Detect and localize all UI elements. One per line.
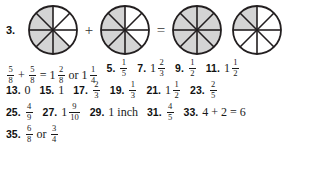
fraction-numerator: 3 [51, 124, 57, 133]
answer-item: 33.4 + 2 = 6 [184, 105, 246, 120]
pie-spoke [53, 13, 70, 30]
answer-value: 1910 [61, 102, 81, 122]
answer-value: 45 [166, 102, 175, 122]
pie-spoke [240, 30, 257, 47]
fraction-denominator: 9 [26, 113, 32, 122]
answer-text: 4 + 2 = 6 [202, 105, 246, 120]
answer-value: 112 [165, 80, 181, 100]
fraction-denominator: 2 [232, 69, 238, 78]
fraction-numerator: 2 [93, 80, 99, 89]
connector-word: or [37, 127, 47, 142]
pie-spoke [125, 13, 142, 30]
answer-item: 7.123 [137, 58, 166, 78]
answer-item: 35.68or34 [6, 124, 59, 144]
answer-exercise-number: 7. [137, 62, 146, 74]
fraction-diagram-row: 3. + = [0, 0, 320, 60]
fraction-denominator: 2 [189, 69, 195, 78]
fraction: 68 [26, 124, 33, 144]
answer-text: 1 inch [108, 105, 138, 120]
fraction-denominator: 3 [130, 91, 136, 100]
pie-chart-1 [26, 3, 80, 57]
fraction-numerator: 2 [158, 58, 164, 67]
fraction: 58 [7, 65, 14, 85]
fraction: 45 [167, 102, 174, 122]
fraction-denominator: 8 [7, 76, 13, 85]
fraction: 23 [93, 80, 100, 100]
plus-operator: + [80, 22, 98, 39]
answer-value: 15 [119, 58, 128, 78]
answer-exercise-number: 33. [184, 106, 199, 118]
fraction-numerator: 5 [7, 65, 13, 74]
whole-number: 1 [50, 68, 56, 83]
fraction-denominator: 8 [26, 135, 32, 144]
pie-chart-2 [98, 3, 152, 57]
answer-exercise-number: 21. [146, 84, 161, 96]
fraction-denominator: 4 [51, 135, 57, 144]
fraction-denominator: 8 [58, 76, 64, 85]
whole-number: 1 [61, 105, 67, 120]
answer-value: 112 [224, 58, 240, 78]
answer-exercise-number: 19. [110, 84, 125, 96]
answer-item: 29.1 inch [90, 105, 138, 120]
fraction-numerator: 2 [210, 80, 216, 89]
answer-item: 19.13 [110, 80, 138, 100]
answer-row: 25.4927.191029.1 inch31.4533.4 + 2 = 6 [6, 102, 314, 124]
answer-value: 49 [25, 102, 34, 122]
answer-item: 9.12 [175, 58, 197, 78]
answer-exercise-number: 25. [6, 106, 21, 118]
equals-operator: = [152, 22, 170, 39]
fraction-numerator: 4 [26, 102, 32, 111]
fraction-denominator: 5 [210, 91, 216, 100]
fraction: 13 [129, 80, 136, 100]
answer-value: 1 inch [108, 105, 138, 120]
fraction: 12 [173, 80, 180, 100]
fraction-denominator: 3 [93, 91, 99, 100]
fraction-numerator: 4 [167, 102, 173, 111]
answer-exercise-number: 9. [175, 62, 184, 74]
answer-value: 4 + 2 = 6 [202, 105, 246, 120]
answer-row: 13.015.117.2319.1321.11223.25 [6, 80, 314, 102]
fraction: 15 [120, 58, 127, 78]
fraction-numerator: 1 [189, 58, 195, 67]
fraction: 23 [158, 58, 165, 78]
fraction: 28 [58, 65, 65, 85]
fraction-numerator: 6 [26, 124, 32, 133]
answer-row: 35.68or34 [6, 124, 314, 146]
fraction-numerator: 5 [29, 65, 35, 74]
fraction: 34 [51, 124, 58, 144]
whole-number: 1 [165, 83, 171, 98]
fraction-numerator: 1 [121, 58, 127, 67]
answer-value: 12 [188, 58, 197, 78]
answer-exercise-number: 31. [147, 106, 162, 118]
pie-chart-4 [230, 3, 284, 57]
fraction: 910 [69, 102, 80, 122]
fraction-numerator: 9 [71, 102, 77, 111]
answer-exercise-number: 5. [107, 62, 116, 74]
answer-exercise-number: 11. [206, 62, 220, 74]
fraction-denominator: 2 [173, 91, 179, 100]
answer-text: + [18, 68, 25, 83]
fraction: 12 [232, 58, 239, 78]
answer-exercise-number: 35. [6, 128, 21, 140]
answer-value: 68or34 [25, 124, 59, 144]
answer-item: 27.1910 [43, 102, 81, 122]
fraction-numerator: 2 [58, 65, 64, 74]
answer-item: 31.45 [147, 102, 175, 122]
answer-exercise-number: 23. [190, 84, 205, 96]
answer-exercise-number: 27. [43, 106, 58, 118]
answer-item: 25.49 [6, 102, 34, 122]
fraction-denominator: 10 [69, 113, 80, 122]
answer-value: 13 [128, 80, 137, 100]
fraction-denominator: 5 [167, 113, 173, 122]
fraction-denominator: 5 [121, 69, 127, 78]
answer-key-list: 58+58=128or1145.157.1239.1211.11213.015.… [0, 58, 320, 146]
fraction-denominator: 3 [158, 69, 164, 78]
fraction: 49 [26, 102, 33, 122]
whole-number: 1 [224, 61, 230, 76]
answer-item: 23.25 [190, 80, 218, 100]
answer-value: 123 [150, 58, 166, 78]
whole-number: 1 [150, 61, 156, 76]
answer-item: 17.23 [73, 80, 101, 100]
answer-item: 5.15 [107, 58, 129, 78]
fraction-numerator: 1 [90, 65, 96, 74]
